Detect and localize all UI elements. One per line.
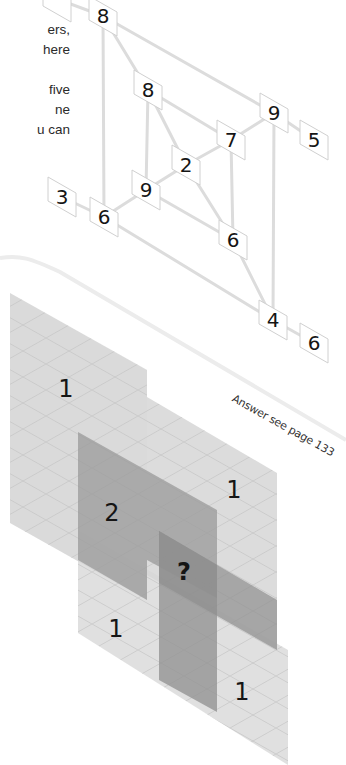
svg-text:5: 5 (308, 128, 321, 152)
tile-network: 8 8 9 5 7 2 9 3 (0, 0, 346, 765)
cell-number: 1 (234, 678, 249, 706)
cell-question: ? (177, 558, 191, 586)
svg-text:9: 9 (140, 178, 153, 202)
cell-number: 1 (58, 375, 73, 403)
tile: 3 (48, 177, 76, 217)
cell-number: 1 (108, 615, 123, 643)
tile: 2 (172, 145, 200, 185)
tile: 5 (300, 120, 328, 160)
cell-number: 2 (104, 499, 119, 527)
svg-text:8: 8 (142, 78, 155, 102)
svg-text:4: 4 (267, 308, 280, 332)
svg-text:2: 2 (180, 153, 193, 177)
svg-text:6: 6 (227, 228, 240, 252)
cell-number: 1 (226, 476, 241, 504)
svg-text:8: 8 (97, 4, 110, 28)
svg-text:6: 6 (98, 205, 111, 229)
svg-text:6: 6 (308, 331, 321, 355)
tile: 6 (300, 323, 328, 363)
svg-text:7: 7 (225, 128, 238, 152)
svg-text:9: 9 (268, 101, 281, 125)
tile (43, 0, 71, 22)
svg-text:3: 3 (56, 185, 69, 209)
tiles: 8 8 9 5 7 2 9 3 (43, 0, 328, 363)
